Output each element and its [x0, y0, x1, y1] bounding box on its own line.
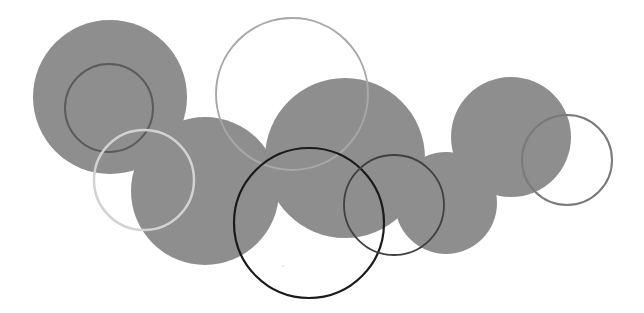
- filled-circle-right: [451, 77, 571, 197]
- filled-circle-left-lower: [131, 117, 279, 265]
- circles-diagram-canvas: [0, 0, 644, 313]
- faint-speck: [282, 265, 284, 267]
